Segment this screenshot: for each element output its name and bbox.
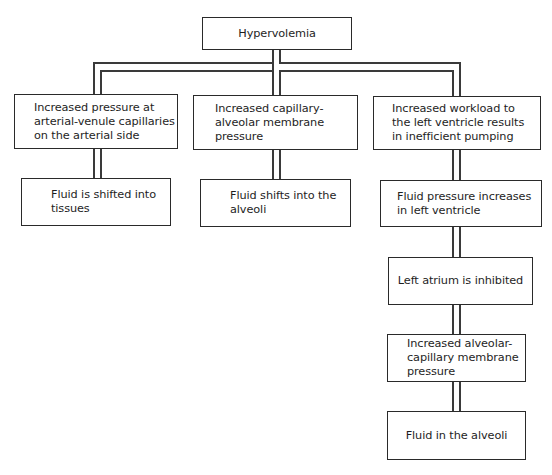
connector-right-inner-vertical — [452, 70, 454, 96]
connector-right-row2-a — [452, 149, 454, 180]
connector-root-stem-left — [272, 49, 274, 95]
connector-left-row2-a — [93, 148, 95, 178]
connector-right-outer-vertical — [459, 62, 461, 96]
node-left-atrium-inhibited: Left atrium is inhibited — [388, 257, 533, 305]
connector-middle-row2-b — [279, 149, 281, 179]
connector-outer-horizontal-left — [93, 62, 273, 64]
node-fluid-shifts-alveoli: Fluid shifts into the alveoli — [200, 179, 351, 227]
connector-inner-horizontal-right — [279, 70, 453, 72]
connector-right-row5-a — [452, 381, 454, 411]
node-increased-alveolar-capillary: Increased alveolar- capillary membrane p… — [387, 334, 526, 382]
node-label: Increased capillary- alveolar membrane p… — [215, 102, 324, 144]
node-increased-workload-lv: Increased workload to the left ventricle… — [373, 96, 541, 150]
node-label: Increased pressure at arterial-venule ca… — [34, 101, 175, 143]
node-hypervolemia: Hypervolemia — [202, 17, 352, 50]
node-label: Fluid shifts into the alveoli — [230, 189, 336, 217]
connector-right-row4-b — [459, 304, 461, 334]
connector-right-row2-b — [459, 149, 461, 180]
node-label: Fluid in the alveoli — [406, 429, 508, 443]
connector-left-outer-vertical — [93, 62, 95, 94]
node-label: Left atrium is inhibited — [398, 274, 523, 288]
node-increased-capillary-alveolar: Increased capillary- alveolar membrane p… — [193, 95, 358, 150]
connector-inner-horizontal-left — [100, 70, 272, 72]
node-label: Hypervolemia — [238, 27, 316, 41]
node-fluid-pressure-lv: Fluid pressure increases in left ventric… — [380, 180, 542, 227]
connector-right-row3-b — [459, 226, 461, 257]
hypervolemia-flowchart: Hypervolemia Increased pressure at arter… — [0, 0, 552, 475]
node-fluid-in-alveoli: Fluid in the alveoli — [387, 411, 526, 460]
connector-outer-horizontal-right — [279, 62, 460, 64]
node-label: Increased workload to the left ventricle… — [392, 102, 524, 144]
node-increased-pressure-arterial: Increased pressure at arterial-venule ca… — [14, 94, 178, 149]
connector-middle-row2-a — [272, 149, 274, 179]
connector-root-stem-right-lower — [279, 70, 281, 95]
connector-left-row2-b — [100, 148, 102, 178]
node-label: Increased alveolar- capillary membrane p… — [407, 337, 519, 379]
connector-right-row5-b — [459, 381, 461, 411]
connector-right-row4-a — [452, 304, 454, 334]
node-label: Fluid is shifted into tissues — [51, 188, 156, 216]
connector-right-row3-a — [452, 226, 454, 257]
connector-root-stem-right-upper — [279, 49, 281, 62]
node-label: Fluid pressure increases in left ventric… — [397, 190, 531, 218]
node-fluid-shifted-tissues: Fluid is shifted into tissues — [21, 178, 171, 226]
connector-left-inner-vertical — [100, 70, 102, 94]
